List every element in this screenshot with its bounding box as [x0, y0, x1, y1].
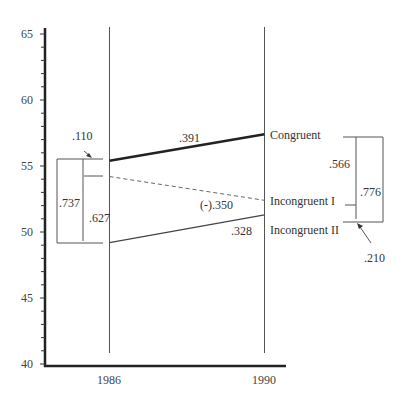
y-tick-label: 45: [21, 291, 33, 305]
bracket-label-bottom-gap: .210: [364, 251, 385, 265]
chart: 404550556065 1986 1990 Congruent Incongr…: [0, 0, 406, 410]
x-label-1990: 1990: [252, 373, 276, 387]
slope-label-incongruent-1: (-).350: [200, 198, 233, 212]
arrow-icon: [357, 223, 363, 229]
y-tick-label: 65: [21, 27, 33, 41]
series-label-incongruent-1: Incongruent I: [270, 194, 335, 208]
bracket-label-top-gap: .110: [72, 129, 93, 143]
bracket-label-outer-left: .737: [59, 196, 80, 210]
bracket-label-outer-right: .776: [360, 185, 381, 199]
series-label-congruent: Congruent: [270, 128, 321, 142]
y-tick-label: 60: [21, 93, 33, 107]
slope-label-incongruent-2: .328: [231, 224, 252, 238]
y-tick-label: 55: [21, 159, 33, 173]
y-tick-label: 40: [21, 357, 33, 371]
bracket-label-inner-right: .566: [329, 157, 350, 171]
x-label-1986: 1986: [97, 373, 121, 387]
slope-label-congruent: .391: [179, 131, 200, 145]
y-tick-label: 50: [21, 225, 33, 239]
y-tick-labels: 404550556065: [21, 27, 33, 371]
bracket-label-inner-left: .627: [89, 211, 110, 225]
series-label-incongruent-2: Incongruent II: [270, 223, 339, 237]
series-line-incongruent-1: [110, 177, 265, 201]
